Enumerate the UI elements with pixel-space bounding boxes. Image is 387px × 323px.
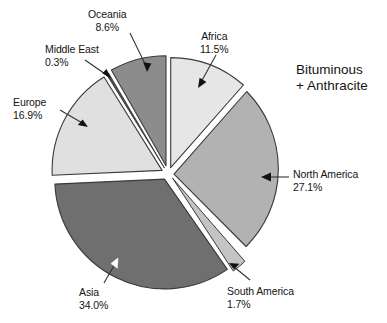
slice-label-africa-name: Africa: [200, 30, 229, 43]
slice-label-europe: Europe 16.9%: [13, 96, 46, 121]
chart-title-line-2: + Anthracite: [296, 78, 368, 94]
chart-title-line-1: Bituminous: [296, 62, 368, 78]
slice-label-middle-east-name: Middle East: [45, 43, 99, 56]
chart-title: Bituminous + Anthracite: [296, 62, 368, 94]
slice-label-asia-value: 34.0%: [79, 299, 108, 312]
slice-label-oceania: Oceania 8.6%: [88, 8, 126, 33]
slice-label-north-america-name: North America: [293, 168, 358, 181]
slice-label-middle-east-value: 0.3%: [45, 56, 99, 69]
pie-chart-figure: Oceania 8.6% Middle East 0.3% Africa 11.…: [0, 0, 387, 323]
slice-label-europe-value: 16.9%: [13, 109, 46, 122]
slice-label-europe-name: Europe: [13, 96, 46, 109]
slice-label-south-america: South America 1.7%: [227, 285, 294, 310]
slice-label-north-america-value: 27.1%: [293, 181, 358, 194]
clipped-caption: [0, 316, 387, 323]
slice-label-oceania-value: 8.6%: [88, 21, 126, 34]
slice-label-africa: Africa 11.5%: [200, 30, 229, 55]
slice-label-south-america-name: South America: [227, 285, 294, 298]
slice-label-oceania-name: Oceania: [88, 8, 126, 21]
slice-label-north-america: North America 27.1%: [293, 168, 358, 193]
slice-label-asia-name: Asia: [79, 286, 108, 299]
slice-label-africa-value: 11.5%: [200, 43, 229, 56]
slice-label-south-america-value: 1.7%: [227, 298, 294, 311]
slice-label-asia: Asia 34.0%: [79, 286, 108, 311]
slice-label-middle-east: Middle East 0.3%: [45, 43, 99, 68]
